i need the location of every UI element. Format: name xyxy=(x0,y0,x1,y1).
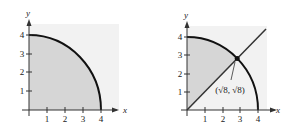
x-tick-1: 1 xyxy=(45,114,50,124)
y-axis-label: y xyxy=(25,8,30,18)
y-tick-1: 1 xyxy=(178,87,183,97)
y-axis-arrow-icon xyxy=(27,19,32,26)
x-tick-2: 2 xyxy=(221,114,226,124)
y-tick-2: 2 xyxy=(178,69,183,79)
x-axis-label: x xyxy=(275,105,280,115)
x-tick-2: 2 xyxy=(63,114,68,124)
y-axis-arrow-icon xyxy=(185,21,190,28)
y-axis-label: y xyxy=(183,10,188,20)
x-axis-label: x xyxy=(122,105,127,115)
x-tick-1: 1 xyxy=(203,114,208,124)
intersection-point xyxy=(235,56,240,61)
x-tick-4: 4 xyxy=(99,114,104,124)
x-tick-3: 3 xyxy=(238,114,243,124)
x-tick-4: 4 xyxy=(256,114,261,124)
figure-quarter-disk: 1 2 3 4 1 2 3 4 x y xyxy=(0,0,141,130)
figure-quarter-disk-with-line: 1 2 3 4 1 2 3 4 x y (√8, √8) xyxy=(141,0,282,130)
y-tick-3: 3 xyxy=(178,50,183,60)
sector-plot: 1 2 3 4 1 2 3 4 x y (√8, √8) xyxy=(141,0,282,130)
intersection-label: (√8, √8) xyxy=(215,85,244,95)
y-tick-3: 3 xyxy=(20,49,25,59)
y-tick-4: 4 xyxy=(178,32,183,42)
y-tick-2: 2 xyxy=(20,67,25,77)
y-tick-4: 4 xyxy=(20,30,25,40)
y-tick-1: 1 xyxy=(20,86,25,96)
x-tick-3: 3 xyxy=(81,114,86,124)
quarter-disk-plot: 1 2 3 4 1 2 3 4 x y xyxy=(0,0,141,130)
